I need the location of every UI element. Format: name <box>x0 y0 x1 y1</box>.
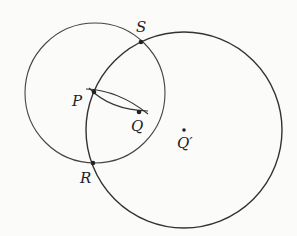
label-Q: Q <box>131 117 143 135</box>
label-S: S <box>136 18 146 36</box>
label-Q-prime: Q′ <box>177 134 193 152</box>
point-S <box>139 40 144 45</box>
point-Q-prime <box>182 128 186 132</box>
point-P <box>92 90 97 95</box>
label-R: R <box>79 169 91 187</box>
label-P: P <box>71 92 83 110</box>
diagram-canvas: S P Q R Q′ <box>0 0 297 236</box>
point-Q <box>137 110 142 115</box>
point-R <box>91 161 96 166</box>
